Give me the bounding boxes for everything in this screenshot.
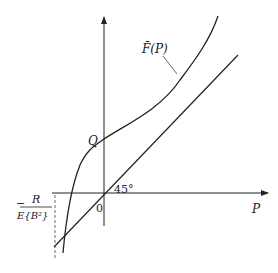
forty-five-degree-line bbox=[54, 55, 238, 247]
diagram-canvas: F̄(P) Q 45° 0 P − R E{B²} bbox=[0, 0, 278, 273]
origin-label: 0 bbox=[96, 202, 103, 215]
marker-sign: − bbox=[16, 197, 25, 210]
curve-label-leader bbox=[163, 56, 177, 74]
angle-label: 45° bbox=[114, 183, 134, 196]
x-axis-label: P bbox=[251, 202, 261, 216]
marker-denominator: E{B²} bbox=[16, 210, 48, 221]
f-bar-curve bbox=[63, 16, 218, 253]
q-label: Q bbox=[88, 134, 98, 148]
marker-numerator: R bbox=[31, 193, 40, 206]
curve-label: F̄(P) bbox=[141, 41, 168, 56]
